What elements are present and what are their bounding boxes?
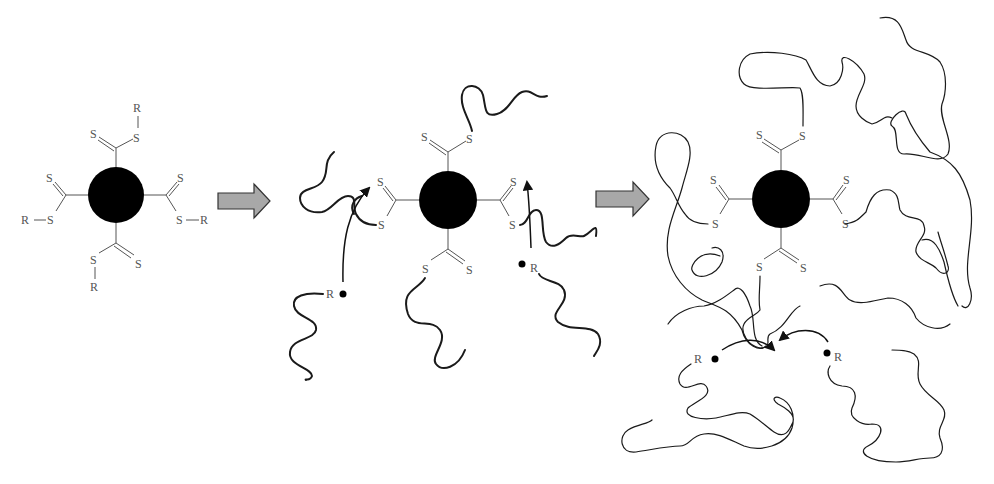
- polymer-chain-mid-right: [820, 284, 950, 328]
- sulfur-label: S: [90, 127, 97, 141]
- sulfur-label: S: [47, 213, 54, 227]
- radical-dot: [519, 261, 526, 268]
- arm-right: S S R: [144, 171, 208, 227]
- sulfur-label: S: [466, 263, 473, 277]
- arm-top: S S R: [90, 101, 141, 167]
- sulfur-label: S: [843, 173, 850, 187]
- sulfur-label: S: [422, 262, 429, 276]
- sulfur-label: S: [756, 260, 763, 274]
- r-group-label: R: [694, 352, 702, 366]
- raft-star-polymerization-diagram: S S R S S R S S R: [0, 0, 994, 484]
- process-arrow-1: [218, 184, 270, 218]
- sulfur-label: S: [46, 171, 53, 185]
- polymer-chain-radical-left: [622, 364, 793, 452]
- arm-left: S S R: [21, 171, 88, 227]
- arm-top: S S: [421, 130, 473, 171]
- sulfur-label: S: [509, 218, 516, 232]
- r-group-label: R: [133, 101, 141, 115]
- sulfur-label: S: [421, 130, 428, 144]
- polymer-chain-top: [462, 86, 547, 131]
- sulfur-label: S: [466, 132, 473, 146]
- polymer-chain-radical-left: [290, 294, 323, 381]
- arm-bottom: S S: [422, 229, 473, 277]
- arm-right: S S: [810, 173, 850, 231]
- process-arrow-2: [596, 182, 649, 216]
- sulfur-label: S: [799, 129, 806, 143]
- sulfur-label: S: [177, 171, 184, 185]
- radical-dot: [340, 291, 347, 298]
- sulfur-label: S: [377, 175, 384, 189]
- arm-left: S S: [710, 173, 752, 231]
- arm-bottom: S S: [756, 228, 807, 275]
- stage-3-star-polymer: S S S S S S S S: [622, 17, 972, 462]
- sulfur-label: S: [510, 175, 517, 189]
- r-group-label: R: [21, 213, 29, 227]
- polymer-chain-top-outer: [880, 17, 972, 307]
- sulfur-label: S: [90, 253, 97, 267]
- polymer-chain-left: [300, 152, 376, 225]
- polymer-chain-left: [655, 133, 766, 349]
- r-group-label: R: [326, 287, 334, 301]
- r-group-label: R: [200, 213, 208, 227]
- sulfur-label: S: [756, 128, 763, 142]
- polymer-chain-top: [739, 52, 892, 126]
- arm-right: S S: [477, 175, 517, 232]
- radical-dot: [712, 356, 719, 363]
- sulfur-label: S: [712, 217, 719, 231]
- arm-bottom: S S R: [90, 223, 142, 294]
- sulfur-label: S: [176, 213, 183, 227]
- sulfur-label: S: [133, 131, 140, 145]
- sulfur-label: S: [710, 173, 717, 187]
- arm-left: S S: [377, 175, 419, 232]
- r-group-label: R: [530, 261, 538, 275]
- polymer-chain-left-loop: [692, 248, 723, 277]
- polymer-chain-radical-right: [539, 274, 600, 356]
- polymer-chain-radical-right: [828, 350, 945, 462]
- attack-arrow-right: [780, 331, 828, 343]
- core-circle: [752, 170, 810, 228]
- polymer-chain-right: [845, 190, 948, 274]
- attack-arrow-left: [343, 188, 369, 282]
- sulfur-label: S: [135, 257, 142, 271]
- stage-1-raft-agent: S S R S S R S S R: [21, 101, 208, 294]
- polymer-chain-left-lower: [668, 288, 762, 346]
- sulfur-label: S: [800, 261, 807, 275]
- arm-top: S S: [756, 128, 806, 170]
- radical-dot: [824, 350, 831, 357]
- r-group-label: R: [834, 350, 842, 364]
- core-circle: [88, 167, 144, 223]
- stage-2-initial-growth: S S S S S S S S: [290, 86, 600, 380]
- r-group-label: R: [90, 280, 98, 294]
- sulfur-label: S: [378, 218, 385, 232]
- core-circle: [419, 171, 477, 229]
- polymer-chain-bottom: [406, 278, 465, 368]
